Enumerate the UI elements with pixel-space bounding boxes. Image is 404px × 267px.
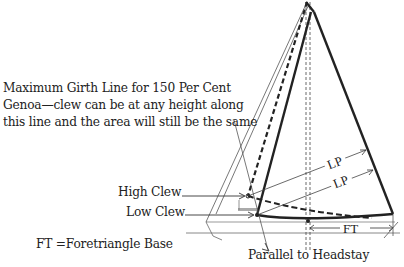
- high-clew-label: High Clew: [118, 184, 181, 201]
- max-girth-line: [234, 120, 268, 250]
- ft-legend-label: FT =Foretriangle Base: [36, 236, 173, 253]
- low-clew-label: Low Clew: [126, 204, 185, 221]
- caption-line: Genoa—clew can be at any height along: [3, 97, 257, 114]
- genoa-geometry-svg: LP LP FT: [0, 0, 404, 267]
- headstay-leech: [314, 12, 393, 214]
- lp-line-lower: [257, 170, 373, 215]
- sail-diagram: LP LP FT Maximum Girth Line for 150 Per …: [0, 0, 404, 267]
- low-clew-foot: [257, 214, 393, 218]
- parallel-to-headstay-label: Parallel to Headstay: [248, 247, 369, 264]
- deck-shade: [238, 208, 258, 211]
- low-clew-luff: [257, 12, 311, 215]
- mast-base-point: [306, 219, 310, 223]
- max-girth-caption: Maximum Girth Line for 150 Per Cent Geno…: [3, 80, 257, 131]
- bow-outline: [206, 222, 222, 240]
- caption-line: this line and the area will still be the…: [3, 114, 257, 131]
- ft-dimension-label: FT: [343, 221, 358, 236]
- stem-line: [384, 222, 398, 238]
- caption-line: Maximum Girth Line for 150 Per Cent: [3, 80, 257, 97]
- low-clew-point: [255, 213, 259, 217]
